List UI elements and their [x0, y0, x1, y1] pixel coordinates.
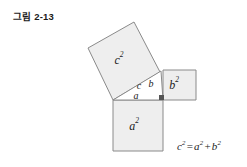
square-b-shape — [163, 70, 196, 100]
triangle-side-label-a: a — [134, 90, 139, 101]
formula-term2-exp: 2 — [218, 139, 222, 146]
pythagorean-formula: c2=a2+b2 — [177, 139, 221, 152]
figure-page: 그림 2-13 c2 b2 a2 c b a c2=a2+b2 — [0, 0, 247, 167]
square-c-label-exp: 2 — [120, 49, 124, 58]
square-a-label-exp: 2 — [135, 115, 139, 124]
triangle-side-label-b: b — [149, 78, 154, 89]
square-a-shape — [113, 100, 163, 151]
square-b-label-exp: 2 — [175, 74, 179, 83]
formula-plus: + — [203, 140, 211, 152]
right-angle-marker-icon — [159, 95, 164, 100]
formula-equals: = — [186, 140, 194, 152]
